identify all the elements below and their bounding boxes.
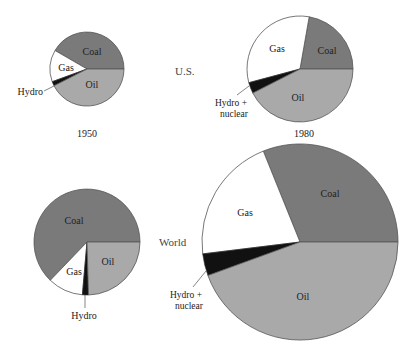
- label-coal: Coal: [83, 46, 102, 57]
- label-us: U.S.: [175, 65, 195, 77]
- label-hydro: Hydro: [17, 86, 43, 97]
- label-world: World: [159, 236, 187, 248]
- label-oil: Oil: [86, 79, 99, 90]
- pie-world-1950: Coal Gas Oil Hydro: [34, 189, 140, 321]
- hydro-leader-line: [44, 86, 54, 91]
- label-gas: Gas: [58, 62, 74, 73]
- label-coal: Coal: [318, 45, 337, 56]
- label-year-1980: 1980: [294, 128, 314, 139]
- label-hydro-nuclear-line2: nuclear: [220, 109, 249, 119]
- label-hydro-nuclear-line1: Hydro +: [170, 290, 202, 300]
- label-oil: Oil: [292, 92, 305, 103]
- label-coal: Coal: [321, 188, 340, 199]
- label-hydro-nuclear-line1: Hydro +: [215, 98, 247, 108]
- label-hydro: Hydro: [71, 310, 97, 321]
- hydro-nuclear-leader-line: [193, 271, 206, 287]
- label-gas: Gas: [269, 43, 285, 54]
- slice-oil: [87, 242, 140, 295]
- energy-pie-charts: Coal Gas Oil Hydro 1950 U.S. Coal Gas Oi…: [0, 0, 419, 357]
- hydro-nuclear-leader-line: [237, 86, 249, 95]
- pie-world-1980: Coal Gas Oil Hydro + nuclear: [170, 144, 398, 340]
- label-gas: Gas: [237, 207, 253, 218]
- pie-us-1950: Coal Gas Oil Hydro 1950: [17, 32, 124, 139]
- label-hydro-nuclear-line2: nuclear: [175, 301, 204, 311]
- pie-us-1980: Coal Gas Oil Hydro + nuclear 1980: [215, 16, 353, 139]
- label-oil: Oil: [102, 256, 115, 267]
- label-oil: Oil: [297, 291, 310, 302]
- label-coal: Coal: [65, 215, 84, 226]
- label-year-1950: 1950: [77, 128, 97, 139]
- label-gas: Gas: [66, 266, 82, 277]
